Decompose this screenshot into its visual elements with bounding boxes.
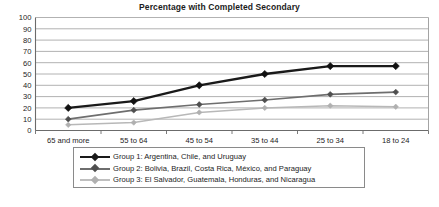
series-data-point <box>393 89 399 95</box>
series-markers-group <box>65 62 400 127</box>
y-axis-tick-label: 90 <box>23 25 31 34</box>
y-axis-tick-label: 70 <box>23 47 31 56</box>
legend-marker-series2-icon <box>80 163 110 174</box>
gridlines-group <box>36 18 429 131</box>
y-axis-tick-label: 10 <box>23 115 31 124</box>
series-data-point <box>66 122 71 127</box>
y-axis-tick-label: 100 <box>19 13 32 22</box>
series-data-point <box>65 116 71 122</box>
y-axis-tick-label: 40 <box>23 81 31 90</box>
legend-label-series1: Group 1: Argentina, Chile, and Uruguay <box>110 152 246 161</box>
series-data-point <box>262 105 267 110</box>
series-data-point <box>262 97 268 103</box>
legend-marker-series3-icon <box>80 174 110 185</box>
chart-container: Percentage with Completed Secondary 0102… <box>0 0 439 207</box>
series-data-point <box>131 120 136 125</box>
series-data-point <box>197 110 202 115</box>
series-data-point <box>392 62 399 69</box>
x-axis-tick-label: 55 to 64 <box>120 136 147 145</box>
legend-item: Group 1: Argentina, Chile, and Uruguay <box>80 151 364 163</box>
x-axis-tick-label: 35 to 44 <box>251 136 278 145</box>
series-data-point <box>196 102 202 108</box>
x-axis-tick-label: 18 to 24 <box>382 136 409 145</box>
chart-plot-area: 0102030405060708090100 65 and more55 to … <box>0 0 439 145</box>
series-data-point <box>196 82 203 89</box>
x-axis-tick-labels: 65 and more55 to 6445 to 5435 to 4425 to… <box>47 136 410 145</box>
y-axis-tick-labels: 0102030405060708090100 <box>19 13 32 135</box>
series-data-point <box>393 104 398 109</box>
x-axis-tick-label: 65 and more <box>47 136 90 145</box>
y-axis-tick-label: 60 <box>23 59 31 68</box>
series-data-point <box>261 70 268 77</box>
chart-legend: Group 1: Argentina, Chile, and Uruguay G… <box>73 147 365 188</box>
legend-label-series3: Group 3: El Salvador, Guatemala, Hondura… <box>110 175 315 184</box>
series-data-point <box>65 104 72 111</box>
legend-marker-series1-icon <box>80 151 110 162</box>
series-lines-group <box>68 66 396 125</box>
series-data-point <box>130 98 137 105</box>
series-line <box>68 106 396 125</box>
y-axis-tick-label: 20 <box>23 104 31 113</box>
legend-item: Group 3: El Salvador, Guatemala, Hondura… <box>80 174 364 186</box>
y-axis-tick-label: 0 <box>27 126 31 135</box>
legend-label-series2: Group 2: Bolivia, Brazil, Costa Rica, Mé… <box>110 164 311 173</box>
y-axis-tick-label: 50 <box>23 70 31 79</box>
x-axis-tick-label: 45 to 54 <box>186 136 213 145</box>
y-axis-tick-label: 30 <box>23 92 31 101</box>
y-axis-tick-label: 80 <box>23 36 31 45</box>
series-data-point <box>327 62 334 69</box>
x-axis-tick-label: 25 to 34 <box>317 136 344 145</box>
legend-item: Group 2: Bolivia, Brazil, Costa Rica, Mé… <box>80 163 364 175</box>
